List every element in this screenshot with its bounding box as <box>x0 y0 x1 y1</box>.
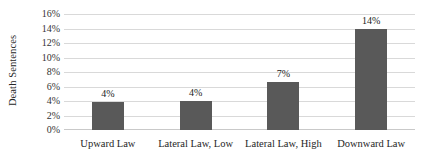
y-axis-tick-label: 10% <box>42 53 60 63</box>
y-axis-title-text: Death Sentences <box>8 34 19 105</box>
bar-chart: Death Sentences 0%2%4%6%8%10%12%14%16% 4… <box>0 0 430 166</box>
y-axis-tick-label: 6% <box>47 82 60 92</box>
bar-data-label: 4% <box>166 88 226 98</box>
y-axis-tick-label: 8% <box>47 67 60 77</box>
y-axis-tick-label: 2% <box>47 111 60 121</box>
x-axis-category-label: Upward Law <box>64 138 152 150</box>
bar[interactable] <box>92 102 124 130</box>
y-axis-title: Death Sentences <box>0 0 26 140</box>
y-axis-tick-labels: 0%2%4%6%8%10%12%14%16% <box>26 14 64 130</box>
bar[interactable] <box>355 29 387 131</box>
bar[interactable] <box>180 101 212 130</box>
y-axis-tick-label: 12% <box>42 38 60 48</box>
y-axis-tick-label: 4% <box>47 96 60 106</box>
y-axis-tick-label: 16% <box>42 9 60 19</box>
y-axis-tick-label: 14% <box>42 24 60 34</box>
x-axis-category-label: Downward Law <box>327 138 415 150</box>
bar[interactable] <box>267 82 299 130</box>
plot-area: 4%4%7%14% <box>64 14 415 130</box>
bar-data-label: 7% <box>253 69 313 79</box>
x-axis-category-label: Lateral Law, High <box>240 138 328 150</box>
x-axis-category-labels: Upward LawLateral Law, LowLateral Law, H… <box>64 134 415 158</box>
bar-data-label: 4% <box>78 89 138 99</box>
bar-data-label: 14% <box>341 16 401 26</box>
x-axis-category-label: Lateral Law, Low <box>152 138 240 150</box>
y-axis-tick-label: 0% <box>47 125 60 135</box>
